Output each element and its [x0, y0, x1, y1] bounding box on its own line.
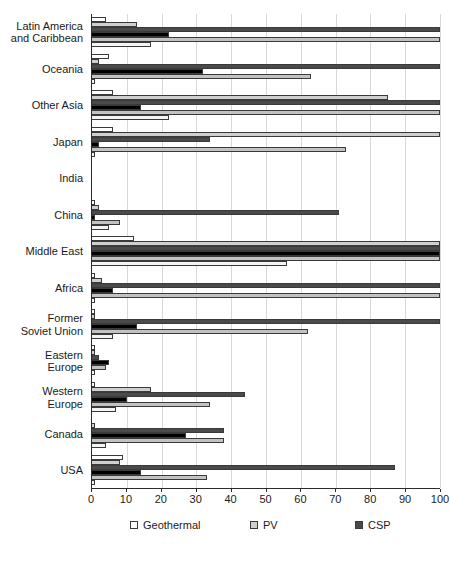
- bar-group: [92, 233, 440, 269]
- legend-swatch-icon: [130, 521, 138, 529]
- x-tick-label: 20: [155, 493, 167, 505]
- x-tick-mark: [126, 489, 127, 492]
- y-axis-label: Former Soviet Union: [0, 306, 88, 343]
- bar-row: [92, 370, 440, 375]
- bar-group: [92, 50, 440, 86]
- x-tick-mark: [370, 489, 371, 492]
- legend-swatch-icon: [250, 521, 258, 529]
- x-tick-mark: [91, 489, 92, 492]
- y-axis-label: Other Asia: [0, 87, 88, 124]
- x-tick-mark: [161, 489, 162, 492]
- bar-group: [92, 269, 440, 305]
- bar-hydro[interactable]: [92, 334, 113, 339]
- legend-label: Geothermal: [143, 519, 200, 531]
- bar-hydro[interactable]: [92, 152, 95, 157]
- bar-hydro[interactable]: [92, 298, 95, 303]
- x-tick-mark: [335, 489, 336, 492]
- bar-hydro[interactable]: [92, 115, 169, 120]
- bar-group: [92, 196, 440, 232]
- bar-hydro[interactable]: [92, 225, 109, 230]
- plot-area: [91, 14, 440, 489]
- x-tick-mark: [266, 489, 267, 492]
- y-axis-label: Eastern Europe: [0, 343, 88, 380]
- legend-swatch-icon: [355, 521, 363, 529]
- legend-item-csp[interactable]: CSP: [355, 519, 450, 531]
- bar-row: [92, 298, 440, 303]
- y-axis-label: Canada: [0, 416, 88, 453]
- y-axis-label: Middle East: [0, 233, 88, 270]
- bar-group: [92, 306, 440, 342]
- bar-row: [92, 115, 440, 120]
- x-tick-mark: [405, 489, 406, 492]
- x-tick-label: 70: [329, 493, 341, 505]
- bar-groups: [92, 14, 440, 488]
- bar-row: [92, 79, 440, 84]
- legend-label: PV: [263, 519, 278, 531]
- bar-hydro[interactable]: [92, 79, 95, 84]
- bar-group: [92, 14, 440, 50]
- bar-hydro[interactable]: [92, 42, 151, 47]
- y-axis-category-labels: Latin America and CaribbeanOceaniaOther …: [0, 14, 88, 489]
- bar-row: [92, 225, 440, 230]
- x-tick-mark: [300, 489, 301, 492]
- plot-wrapper: Latin America and CaribbeanOceaniaOther …: [0, 0, 450, 500]
- bar-hydro[interactable]: [92, 261, 287, 266]
- horizontal-bar-chart: Latin America and CaribbeanOceaniaOther …: [0, 0, 450, 561]
- bar-group: [92, 342, 440, 378]
- y-axis-label: USA: [0, 452, 88, 489]
- chart-legend: GeothermalPVCSPWindBiomassHydro: [130, 516, 430, 533]
- bar-group: [92, 452, 440, 488]
- y-axis-label: Latin America and Caribbean: [0, 14, 88, 51]
- y-axis-label: India: [0, 160, 88, 197]
- bar-group: [92, 87, 440, 123]
- bar-group: [92, 379, 440, 415]
- bar-hydro[interactable]: [92, 480, 95, 485]
- bar-row: [92, 334, 440, 339]
- x-tick-label: 90: [399, 493, 411, 505]
- x-tick-mark: [440, 489, 441, 492]
- bar-row: [92, 188, 440, 193]
- x-axis: 0102030405060708090100: [91, 489, 440, 511]
- y-axis-label: Oceania: [0, 51, 88, 88]
- y-axis-label: Japan: [0, 124, 88, 161]
- bar-hydro[interactable]: [92, 407, 116, 412]
- bar-hydro[interactable]: [92, 443, 106, 448]
- y-axis-label: Africa: [0, 270, 88, 307]
- x-tick-label: 0: [88, 493, 94, 505]
- bar-group: [92, 415, 440, 451]
- x-tick-mark: [231, 489, 232, 492]
- x-tick-label: 30: [190, 493, 202, 505]
- x-tick-label: 60: [294, 493, 306, 505]
- y-axis-label: China: [0, 197, 88, 234]
- x-tick-mark: [196, 489, 197, 492]
- bar-row: [92, 261, 440, 266]
- bar-row: [92, 480, 440, 485]
- legend-item-pv[interactable]: PV: [250, 519, 355, 531]
- bar-row: [92, 152, 440, 157]
- x-tick-label: 40: [224, 493, 236, 505]
- legend-label: CSP: [368, 519, 391, 531]
- bar-row: [92, 407, 440, 412]
- x-tick-label: 10: [120, 493, 132, 505]
- legend-item-geothermal[interactable]: Geothermal: [130, 519, 250, 531]
- bar-hydro[interactable]: [92, 370, 95, 375]
- gridline: [440, 14, 441, 488]
- x-tick-label: 80: [364, 493, 376, 505]
- y-axis-label: Western Europe: [0, 379, 88, 416]
- bar-group: [92, 123, 440, 159]
- bar-row: [92, 42, 440, 47]
- x-tick-label: 50: [259, 493, 271, 505]
- bar-group: [92, 160, 440, 196]
- bar-row: [92, 443, 440, 448]
- x-tick-label: 100: [431, 493, 449, 505]
